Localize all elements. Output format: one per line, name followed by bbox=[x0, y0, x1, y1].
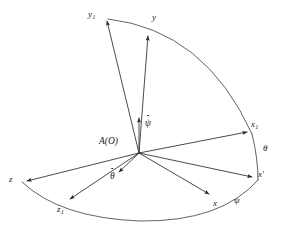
euler-angle-diagram: y1 y ψ A(O) x1 θ x′ ψ x θ z z1 bbox=[0, 0, 285, 230]
axis-x1 bbox=[139, 132, 247, 153]
axis-x-prime bbox=[139, 153, 252, 177]
label-z: z bbox=[9, 175, 13, 184]
overdot-mark bbox=[112, 168, 114, 170]
axis-z bbox=[27, 153, 139, 181]
axis-y bbox=[139, 36, 148, 153]
label-theta-dot: θ bbox=[110, 172, 115, 182]
label-psi-dot: ψ bbox=[145, 119, 151, 129]
label-theta: θ bbox=[263, 144, 267, 153]
arc-y1-to-x1 bbox=[108, 19, 252, 134]
axis-y1 bbox=[107, 21, 139, 153]
label-x1: x1 bbox=[251, 120, 258, 129]
label-y1: y1 bbox=[88, 10, 95, 19]
label-z1: z1 bbox=[57, 205, 64, 214]
label-x: x bbox=[213, 199, 217, 208]
axis-x bbox=[139, 153, 209, 194]
axis-z1 bbox=[70, 153, 139, 199]
label-y: y bbox=[152, 13, 156, 22]
label-x-prime: x′ bbox=[258, 170, 264, 179]
label-psi: ψ bbox=[234, 196, 240, 205]
arc-z-to-xprime bbox=[22, 180, 258, 221]
overdot-mark bbox=[147, 115, 149, 117]
diagram-canvas bbox=[0, 0, 285, 230]
label-origin: A(O) bbox=[99, 137, 118, 147]
